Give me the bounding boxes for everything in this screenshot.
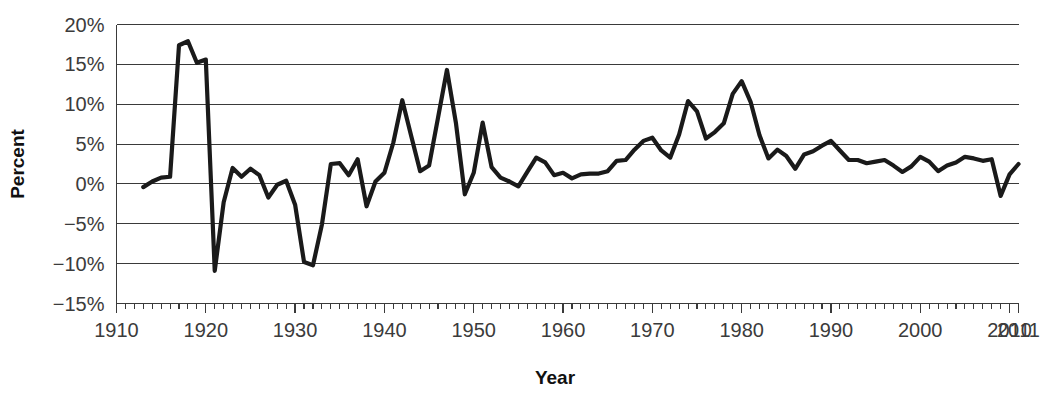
x-axis-title: Year	[535, 367, 576, 388]
x-tick-label-5: 1960	[541, 319, 586, 341]
y-tick-label-2: 10%	[64, 93, 104, 115]
x-tick-label-7: 1980	[719, 319, 764, 341]
x-tick-label-8: 1990	[809, 319, 854, 341]
line-chart: 20%15%10%5%0%−5%−10%−15%1910192019301940…	[0, 0, 1050, 400]
x-tick-label-11: 2011	[997, 319, 1040, 341]
y-tick-label-1: 15%	[64, 53, 104, 75]
x-tick-label-0: 1910	[94, 319, 139, 341]
x-tick-label-6: 1970	[630, 319, 675, 341]
y-tick-label-5: −5%	[64, 213, 105, 235]
x-tick-label-3: 1940	[362, 319, 407, 341]
chart-container: 20%15%10%5%0%−5%−10%−15%1910192019301940…	[0, 0, 1050, 400]
data-series-line	[143, 41, 1018, 271]
y-tick-label-6: −10%	[53, 253, 105, 275]
x-tick-label-1: 1920	[184, 319, 229, 341]
y-tick-label-7: −15%	[53, 293, 105, 315]
y-tick-label-0: 20%	[64, 14, 104, 36]
x-tick-label-4: 1950	[451, 319, 496, 341]
y-axis-title: Percent	[7, 128, 28, 198]
x-tick-label-2: 1930	[273, 319, 318, 341]
y-tick-label-3: 5%	[76, 133, 105, 155]
x-tick-label-9: 2000	[898, 319, 943, 341]
y-tick-label-4: 0%	[76, 173, 105, 195]
